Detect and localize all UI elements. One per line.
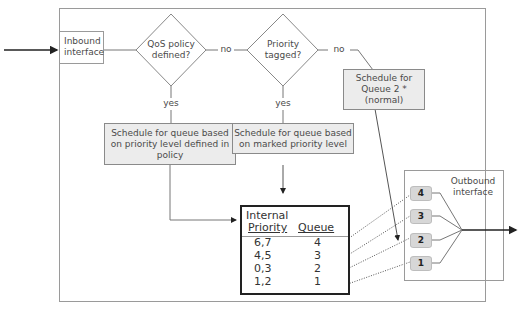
table-row-1-queue: 4: [314, 237, 321, 248]
priority-no-label: no: [330, 44, 348, 55]
priority-yes-label: yes: [272, 98, 294, 109]
outbound-interface-label: Outbound interface: [448, 176, 498, 198]
queue-2-cylinder: 2: [410, 233, 432, 248]
schedule-policy-line3: policy: [111, 150, 230, 161]
table-row-2-queue: 3: [314, 250, 321, 261]
schedule-queue2-line1: Schedule for: [356, 73, 413, 84]
schedule-marked-line1: Schedule for queue based: [234, 128, 352, 139]
queue-3-cylinder: 3: [410, 209, 432, 224]
qos-policy-decision: QoS policy defined?: [141, 39, 201, 61]
schedule-marked-line2: on marked priority level: [234, 139, 352, 150]
table-row-4-priority: 1,2: [254, 276, 272, 287]
schedule-policy-line1: Schedule for queue based: [111, 128, 230, 139]
queue-4-cylinder: 4: [410, 186, 432, 201]
schedule-queue2-box: Schedule for Queue 2 * (normal): [343, 69, 425, 110]
schedule-policy-box: Schedule for queue based on priority lev…: [104, 123, 236, 165]
outbound-label-line1: Outbound: [448, 176, 498, 187]
table-header-priority: Priority: [248, 222, 287, 234]
qos-decision-line1: QoS policy: [141, 39, 201, 50]
priority-decision-line1: Priority: [253, 39, 313, 50]
priority-decision-line2: tagged?: [253, 50, 313, 61]
table-row-4-queue: 1: [314, 276, 321, 287]
qos-decision-line2: defined?: [141, 50, 201, 61]
table-header-queue: Queue: [298, 222, 334, 234]
inbound-interface-box: Inbound interface: [59, 31, 104, 64]
schedule-queue2-line2: Queue 2 *: [356, 84, 413, 95]
table-row-3-queue: 2: [314, 263, 321, 274]
outbound-label-line2: interface: [448, 187, 498, 198]
schedule-queue2-line3: (normal): [356, 95, 413, 106]
qos-no-label: no: [218, 44, 234, 55]
inbound-label-line2: interface: [64, 47, 104, 58]
priority-queue-table: Internal Priority Queue 6,7 4 4,5 3 0,3 …: [240, 205, 350, 295]
queue-1-cylinder: 1: [410, 256, 432, 271]
priority-tagged-decision: Priority tagged?: [253, 39, 313, 61]
table-row-3-priority: 0,3: [254, 263, 272, 274]
schedule-policy-line2: on priority level defined in: [111, 139, 230, 150]
schedule-marked-box: Schedule for queue based on marked prior…: [232, 123, 354, 154]
table-row-1-priority: 6,7: [254, 237, 272, 248]
qos-yes-label: yes: [160, 98, 182, 109]
inbound-label-line1: Inbound: [64, 36, 104, 47]
table-row-2-priority: 4,5: [254, 250, 272, 261]
